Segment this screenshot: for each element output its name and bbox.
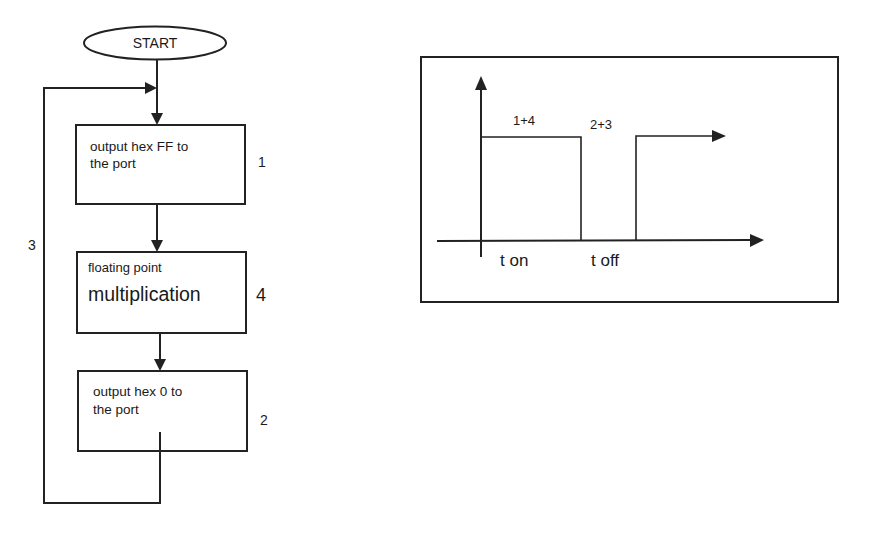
- timing-frame: [421, 57, 838, 302]
- step-output-ff: output hex FF to the port 1: [76, 125, 266, 204]
- start-label: START: [133, 35, 178, 51]
- flowchart: START 3 output hex FF to the port 1 floa…: [28, 27, 268, 504]
- x-axis: [437, 240, 752, 241]
- step-number: 1: [258, 154, 266, 170]
- diagram-canvas: START 3 output hex FF to the port 1 floa…: [0, 0, 876, 533]
- step-text-line-2: the port: [93, 402, 139, 417]
- arrow-right-icon: [145, 82, 157, 94]
- arrow-down-icon: [151, 240, 163, 252]
- step-number: 2: [260, 412, 268, 428]
- start-terminal: START: [84, 27, 226, 60]
- step-text-big: multiplication: [88, 283, 201, 305]
- step-float-multiply: floating point multiplication 4: [77, 252, 266, 333]
- loop-label: 3: [28, 237, 36, 253]
- step-output-zero: output hex 0 to the port 2: [78, 371, 268, 451]
- high-phase-label: 1+4: [513, 113, 535, 128]
- t-on-label: t on: [500, 251, 528, 270]
- step-text-line-1: output hex 0 to: [93, 384, 182, 399]
- low-phase-label: 2+3: [590, 117, 612, 132]
- arrow-down-icon: [154, 359, 166, 371]
- step-text-line-1: output hex FF to: [90, 139, 188, 154]
- timing-diagram: 1+4 2+3 t on t off: [421, 57, 838, 302]
- step-number: 4: [256, 285, 266, 305]
- t-off-label: t off: [591, 251, 619, 270]
- arrow-down-icon: [151, 113, 163, 125]
- step-text-small: floating point: [88, 260, 162, 275]
- step-text-line-2: the port: [90, 156, 136, 171]
